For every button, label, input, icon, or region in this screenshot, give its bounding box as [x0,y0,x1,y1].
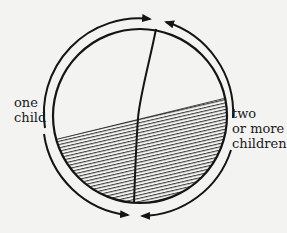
label-two-or-more-line2: or more [232,121,285,136]
label-one-child-line1: one [14,95,38,110]
left-upper-arrow [44,18,150,128]
label-one-child: one child [14,95,46,125]
label-two-or-more-line1: two [232,106,256,121]
label-two-or-more-children: two or more children [232,106,287,151]
hatched-region [40,95,240,215]
label-two-or-more-line3: children [232,136,287,151]
label-one-child-line2: child [14,110,46,125]
family-size-diagram: one child two or more children [0,0,287,233]
